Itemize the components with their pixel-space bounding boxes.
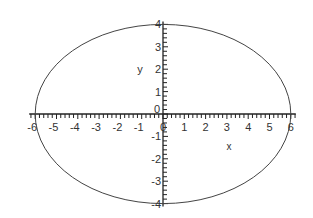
y-tick-label: -4 (151, 198, 161, 210)
y-tick-label: -2 (151, 153, 161, 165)
x-tick-label: -3 (91, 121, 101, 133)
ellipse-plot: -6-5-4-3-2-10123456-4-3-2-101234xy (0, 0, 313, 218)
y-tick-label: 3 (155, 41, 161, 53)
y-tick-label: 2 (155, 63, 161, 75)
y-tick-label: -1 (151, 130, 161, 142)
x-tick-label: -2 (113, 121, 123, 133)
y-tick-label: -3 (151, 175, 161, 187)
y-axis-label: y (137, 63, 143, 75)
x-tick-label: 3 (224, 121, 230, 133)
x-tick-label: -4 (70, 121, 80, 133)
x-tick-label: -6 (27, 121, 37, 133)
x-tick-label: -5 (49, 121, 59, 133)
x-axis-label: x (227, 141, 232, 152)
y-tick-label: 1 (155, 86, 161, 98)
x-tick-label: 2 (203, 121, 209, 133)
x-tick-label: -1 (134, 121, 144, 133)
y-tick-label: 0 (154, 103, 160, 115)
y-tick-label: 4 (155, 18, 161, 30)
x-tick-label: 1 (181, 121, 187, 133)
x-tick-label: 4 (245, 121, 251, 133)
axes (29, 21, 296, 206)
x-tick-label: 6 (288, 121, 294, 133)
x-tick-label: 5 (266, 121, 272, 133)
